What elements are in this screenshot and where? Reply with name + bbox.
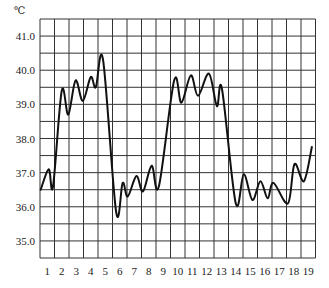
y-axis-unit-label: ℃: [14, 5, 25, 16]
x-tick-label: 5: [98, 265, 113, 277]
y-tick-label: 35.0: [0, 235, 35, 247]
y-tick-label: 36.0: [0, 201, 35, 213]
x-tick-label: 13: [214, 265, 229, 277]
y-tick-label: 40.0: [0, 64, 35, 76]
x-tick-label: 18: [287, 265, 302, 277]
y-tick-label: 39.0: [0, 98, 35, 110]
x-tick-label: 16: [258, 265, 273, 277]
y-tick-label: 38.0: [0, 133, 35, 145]
x-tick-label: 10: [171, 265, 186, 277]
y-tick-label: 37.0: [0, 167, 35, 179]
x-tick-label: 2: [55, 265, 70, 277]
x-tick-label: 8: [142, 265, 157, 277]
x-tick-label: 4: [84, 265, 99, 277]
x-tick-label: 12: [200, 265, 215, 277]
x-tick-label: 1: [40, 265, 55, 277]
x-tick-label: 19: [301, 265, 316, 277]
x-tick-label: 14: [229, 265, 244, 277]
x-tick-label: 9: [156, 265, 171, 277]
x-tick-label: 11: [185, 265, 200, 277]
temperature-chart: [0, 0, 329, 288]
y-tick-label: 41.0: [0, 30, 35, 42]
x-tick-label: 6: [113, 265, 128, 277]
x-tick-label: 15: [243, 265, 258, 277]
x-tick-label: 7: [127, 265, 142, 277]
x-tick-label: 17: [272, 265, 287, 277]
temperature-line: [41, 55, 312, 218]
chart-grid: [40, 19, 316, 258]
x-tick-label: 3: [69, 265, 84, 277]
